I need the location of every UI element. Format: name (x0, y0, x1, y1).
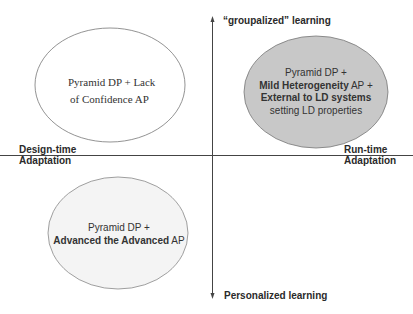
quadrant-top-right-text: Pyramid DP + Mild Heterogeneity AP + Ext… (244, 67, 388, 117)
bottom-left-line2-rest: AP (169, 235, 185, 246)
bottom-left-line2: Advanced the Advanced AP (48, 235, 190, 248)
axis-label-right-line1: Run-time (344, 144, 396, 155)
axis-label-left-line1: Design-time (19, 144, 76, 155)
axis-label-left: Design-time Adaptation (19, 144, 76, 166)
top-right-line2-rest: AP + (349, 80, 373, 91)
quadrant-top-left-text: Pyramid DP + Lack of Confidence AP (60, 74, 160, 108)
top-right-line1: Pyramid DP + (244, 67, 388, 80)
axis-label-right: Run-time Adaptation (344, 144, 396, 166)
arrow-down-icon (211, 293, 215, 299)
bottom-left-line1: Pyramid DP + (48, 222, 190, 235)
top-right-line2-bold: Mild Heterogeneity (259, 80, 348, 91)
quadrant-bottom-left-text: Pyramid DP + Advanced the Advanced AP (48, 222, 190, 247)
axis-label-bottom: Personalized learning (224, 290, 327, 301)
axis-label-top: “groupalized” learning (223, 15, 331, 26)
arrow-up-icon (211, 16, 215, 22)
axis-label-right-line2: Adaptation (344, 155, 396, 166)
top-right-line3: External to LD systems (244, 92, 388, 105)
top-right-line4: setting LD properties (244, 105, 388, 118)
top-left-line2: of Confidence AP (60, 91, 160, 108)
top-right-line2: Mild Heterogeneity AP + (244, 80, 388, 93)
bottom-left-line2-bold: Advanced the Advanced (53, 235, 169, 246)
axis-label-left-line2: Adaptation (19, 155, 76, 166)
top-left-line1: Pyramid DP + Lack (60, 74, 160, 91)
